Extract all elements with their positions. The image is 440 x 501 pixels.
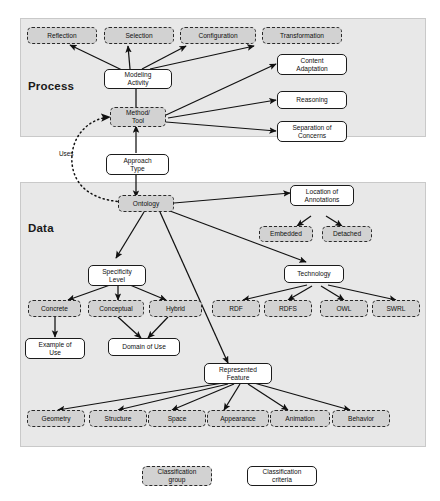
uses-edge-label: Uses [59,150,74,157]
node-behavior[interactable]: Behavior [332,410,390,427]
node-conceptual[interactable]: Conceptual [88,300,144,317]
node-domain-of-use[interactable]: Domain of Use [108,338,180,356]
node-reflection[interactable]: Reflection [27,27,97,44]
node-rdf[interactable]: RDF [212,300,260,317]
legend-classification-criteria: Classification criteria [247,466,317,486]
node-reasoning[interactable]: Reasoning [277,91,347,109]
node-hybrid[interactable]: Hybrid [149,300,202,317]
legend-classification-group: Classification group [142,466,212,486]
node-structure[interactable]: Structure [89,410,147,427]
node-ontology[interactable]: Ontology [118,195,174,212]
node-content-adaptation[interactable]: Content Adaptation [277,54,347,75]
node-rdfs[interactable]: RDFS [264,300,312,317]
node-approach-type[interactable]: Approach Type [106,154,169,175]
node-swrl[interactable]: SWRL [372,300,420,317]
node-geometry[interactable]: Geometry [27,410,85,427]
node-detached[interactable]: Detached [322,226,372,242]
node-space[interactable]: Space [148,410,206,427]
node-represented-feature[interactable]: Represented Feature [204,363,272,384]
node-location-of-annotations[interactable]: Location of Annotations [290,185,354,206]
node-owl[interactable]: OWL [320,300,368,317]
node-appearance[interactable]: Appearance [207,410,269,427]
node-separation-of-concerns[interactable]: Separation of Concerns [277,121,347,142]
node-configuration[interactable]: Configuration [180,27,256,44]
node-example-of-use[interactable]: Example of Use [25,338,85,359]
node-animation[interactable]: Animation [270,410,330,427]
node-selection[interactable]: Selection [104,27,174,44]
node-method-tool[interactable]: Method/ Tool [110,107,166,127]
node-transformation[interactable]: Transformation [262,27,342,44]
node-embedded[interactable]: Embedded [259,226,313,242]
node-concrete[interactable]: Concrete [28,300,81,317]
node-modeling-activity[interactable]: Modeling Activity [104,69,172,89]
diagram-canvas: Process Data [0,0,440,501]
node-specificity-level[interactable]: Specificity Level [88,265,146,286]
node-technology[interactable]: Technology [284,265,344,283]
